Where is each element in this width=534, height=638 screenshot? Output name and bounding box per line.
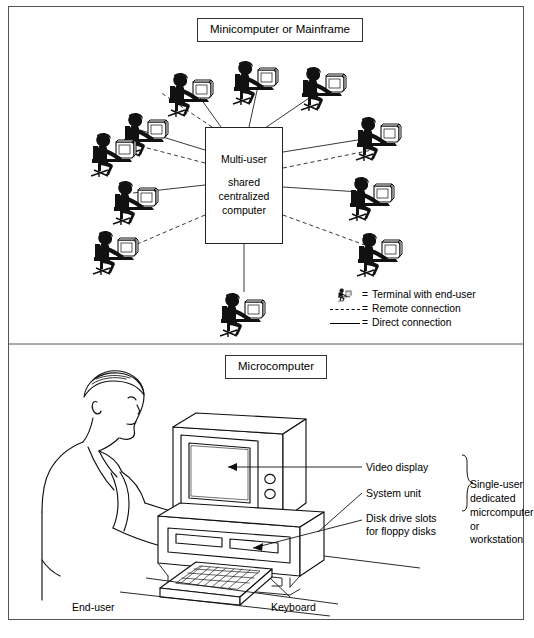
leader-unit-right <box>324 556 420 568</box>
callout-video-display: Video display <box>366 461 428 474</box>
callout-single-user-group: Single-user dedicated micrcomputer or wo… <box>470 478 532 547</box>
brace-label-line-5: workstation <box>470 533 532 547</box>
leader-arrowhead <box>228 463 237 471</box>
callout-lines-layer <box>0 0 534 638</box>
callout-system-unit: System unit <box>366 487 421 500</box>
label-keyboard: Keyboard <box>271 601 316 614</box>
leader-arrowhead <box>253 543 263 551</box>
leader-system-unit <box>318 493 362 532</box>
callout-disk-drive-slots: Disk drive slots for floppy disks <box>366 512 462 538</box>
leader-keyboard <box>270 578 290 597</box>
callout-disk-line-2: for floppy disks <box>366 525 462 538</box>
brace-label-line-4: or <box>470 520 532 534</box>
diagram-stage: Minicomputer or Mainframe Multi-user sha… <box>0 0 534 638</box>
brace-label-line-1: Single-user <box>470 478 532 492</box>
label-end-user: End-user <box>72 601 115 614</box>
leader-disk-drive <box>253 520 362 548</box>
callout-disk-line-1: Disk drive slots <box>366 512 462 525</box>
brace-label-line-3: micrcomputer <box>470 506 532 520</box>
brace-label-line-2: dedicated <box>470 492 532 506</box>
